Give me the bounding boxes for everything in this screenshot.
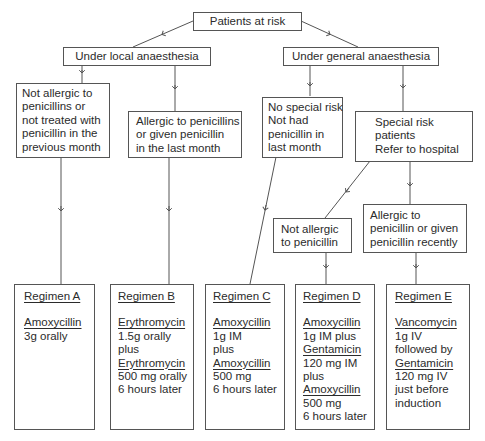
dose-line: followed by (395, 343, 461, 356)
regimen-e-box: Regimen E Vancomycin 1g IV followed by G… (386, 284, 470, 430)
dose-line: induction (395, 397, 461, 410)
condition-line: Allergic to penicillins (136, 115, 234, 128)
condition-line: penicillin recently (370, 236, 460, 249)
drug-name: Gentamicin (395, 357, 461, 370)
regimen-title: Regimen D (303, 290, 367, 303)
regimen-title: Regimen B (118, 290, 186, 303)
condition-line: Special risk (375, 116, 472, 129)
regimen-b-box: Regimen B Erythromycin 1.5g orally plus … (110, 284, 194, 430)
condition-line: last month (268, 141, 337, 154)
condition-line: not treated with (22, 114, 104, 127)
branch-general-anaesthesia: Under general anaesthesia (283, 47, 439, 66)
condition-line: Allergic to (370, 209, 460, 222)
condition-line: Not had (268, 114, 337, 127)
drug-name: Gentamicin (303, 343, 367, 356)
drug-name: Erythromycin (118, 357, 186, 370)
regimen-d-box: Regimen D Amoxycillin 1g IM plus Gentami… (295, 284, 375, 430)
root-node-patients-at-risk: Patients at risk (193, 12, 302, 31)
dose-line: 6 hours later (213, 383, 277, 396)
dose-line: 120 mg IM (303, 357, 367, 370)
drug-name: Erythromycin (118, 316, 186, 329)
condition-special-not-allergic: Not allergic to penicillin (273, 218, 352, 253)
regimen-title: Regimen E (395, 290, 461, 303)
dose-line: plus (118, 343, 186, 356)
condition-line: penicillin or given (370, 222, 460, 235)
dose-line: 1g IM (213, 330, 277, 343)
condition-line: to penicillin (281, 236, 344, 249)
condition-line: penicillins or (22, 100, 104, 113)
condition-line: Not allergic (281, 223, 344, 236)
dose-line: 500 mg (303, 397, 367, 410)
dose-line: 500 mg (213, 370, 277, 383)
dose-line: 1g IM plus (303, 330, 367, 343)
condition-local-not-allergic: Not allergic to penicillins or not treat… (16, 83, 110, 158)
condition-line: patients (375, 129, 472, 142)
condition-line: previous month (22, 141, 104, 154)
condition-special-allergic: Allergic to penicillin or given penicill… (363, 204, 467, 253)
condition-general-special-risk: Special risk patients Refer to hospital (355, 111, 473, 162)
condition-line: penicillin in the (22, 127, 104, 140)
dose-line: 6 hours later (303, 410, 367, 423)
condition-line: or given penicillin (136, 128, 234, 141)
regimen-a-box: Regimen A Amoxycillin 3g orally (14, 284, 95, 430)
branch-label: Under general anaesthesia (292, 50, 430, 63)
dose-line: 500 mg orally (118, 370, 186, 383)
dose-line: plus (303, 370, 367, 383)
drug-name: Amoxycillin (24, 316, 85, 329)
dose-line: 1g IV (395, 330, 461, 343)
condition-line: No special risk (268, 101, 337, 114)
drug-name: Amoxycillin (213, 316, 277, 329)
regimen-title: Regimen A (24, 290, 85, 303)
condition-line: Refer to hospital (375, 143, 472, 156)
condition-line: penicillin in (268, 128, 337, 141)
drug-name: Amoxycillin (213, 357, 277, 370)
dose-line: 3g orally (24, 330, 85, 343)
condition-general-no-special-risk: No special risk Not had penicillin in la… (262, 97, 343, 158)
condition-line: Not allergic to (22, 87, 104, 100)
branch-local-anaesthesia: Under local anaesthesia (63, 47, 211, 66)
dose-line: just before (395, 383, 461, 396)
branch-label: Under local anaesthesia (75, 50, 198, 63)
drug-name: Vancomycin (395, 316, 461, 329)
regimen-c-box: Regimen C Amoxycillin 1g IM plus Amoxyci… (205, 284, 285, 430)
drug-name: Amoxycillin (303, 316, 367, 329)
root-label: Patients at risk (210, 15, 285, 28)
drug-name: Amoxycillin (303, 383, 367, 396)
condition-line: in the last month (136, 142, 234, 155)
dose-line: 6 hours later (118, 383, 186, 396)
dose-line: plus (213, 343, 277, 356)
regimen-title: Regimen C (213, 290, 277, 303)
dose-line: 120 mg IV (395, 370, 461, 383)
condition-local-allergic: Allergic to penicillins or given penicil… (128, 111, 242, 158)
dose-line: 1.5g orally (118, 330, 186, 343)
